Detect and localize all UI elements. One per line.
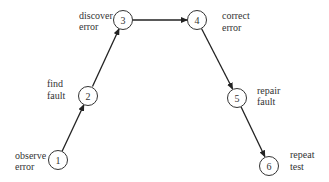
node-label: error xyxy=(15,161,35,172)
node-repair-fault: 5 repair fault xyxy=(228,85,281,108)
node-number: 2 xyxy=(86,91,91,102)
node-find-fault: 2 find fault xyxy=(47,78,98,106)
node-label: find xyxy=(47,78,63,89)
node-number: 1 xyxy=(56,155,61,166)
node-label: discover xyxy=(79,10,114,21)
node-label: test xyxy=(290,161,304,172)
node-label: fault xyxy=(257,96,276,107)
node-observe-error: 1 observe error xyxy=(15,150,68,172)
node-number: 6 xyxy=(267,161,272,172)
node-number: 5 xyxy=(235,93,240,104)
node-number: 4 xyxy=(195,15,200,26)
node-label: error xyxy=(222,22,242,33)
debugging-process-diagram: 1 observe error 2 find fault 3 discover … xyxy=(0,0,329,182)
node-label: fault xyxy=(47,90,66,101)
edge-1-to-2 xyxy=(62,105,84,152)
node-label: observe xyxy=(15,150,47,161)
node-label: correct xyxy=(222,10,250,21)
node-label: repeat xyxy=(290,149,315,160)
node-repeat-test: 6 repeat test xyxy=(260,149,315,176)
node-discover-error: 3 discover error xyxy=(79,10,133,32)
node-number: 3 xyxy=(121,15,126,26)
edge-2-to-3 xyxy=(93,29,120,87)
node-label: error xyxy=(79,21,99,32)
edge-4-to-5 xyxy=(202,29,233,89)
node-label: repair xyxy=(257,85,281,96)
edge-5-to-6 xyxy=(241,107,265,157)
node-correct-error: 4 correct error xyxy=(188,10,250,33)
